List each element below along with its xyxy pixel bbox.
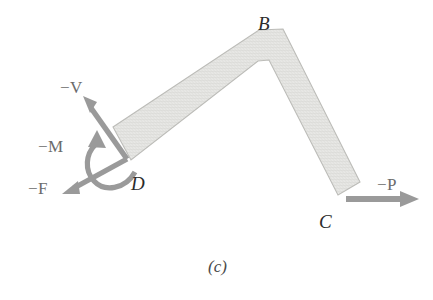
point-label-d: D	[131, 174, 145, 193]
point-label-c: C	[319, 212, 332, 231]
bent-bar-body	[113, 29, 360, 195]
free-body-diagram-figure: −V −M −F −P B C D (c)	[0, 0, 433, 300]
force-label-minus-f: −F	[28, 180, 48, 197]
force-label-minus-p: −P	[377, 176, 397, 193]
force-label-minus-v: −V	[60, 79, 83, 96]
force-label-minus-m: −M	[38, 138, 64, 155]
point-label-b: B	[258, 14, 270, 33]
bar-outline	[113, 29, 360, 195]
figure-caption: (c)	[208, 258, 227, 275]
diagram-canvas	[0, 0, 433, 300]
